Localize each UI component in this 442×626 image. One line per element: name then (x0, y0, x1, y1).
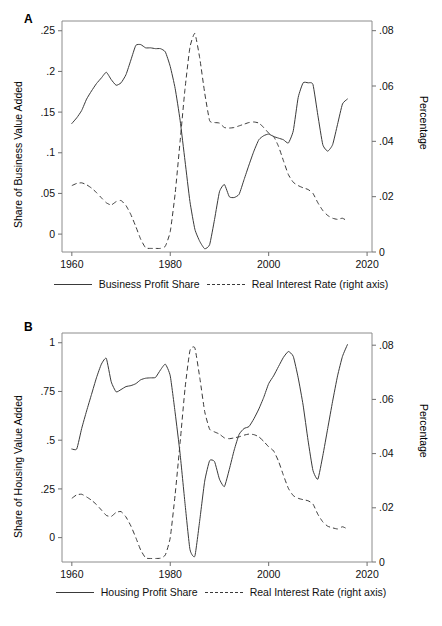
x-tick-label: 1960 (60, 258, 84, 270)
y2-tick-label: 0 (379, 556, 385, 568)
legend-solid-swatch (56, 592, 94, 593)
x-tick-label: 2020 (355, 568, 379, 580)
legend-dashed-label: Real Interest Rate (right axis) (252, 278, 389, 290)
y-tick-label: .1 (46, 146, 55, 158)
y2-tick-label: .06 (379, 393, 394, 405)
y-tick-label: .25 (40, 483, 55, 495)
y2-tick-label: .08 (379, 24, 394, 36)
y2-tick-label: .06 (379, 80, 394, 92)
y-tick-label: .2 (46, 65, 55, 77)
panel-a: A Share of Business Value Added Percenta… (0, 0, 442, 300)
y-tick-label: 1 (49, 336, 55, 348)
y-tick-label: 0 (49, 228, 55, 240)
y2-tick-label: .04 (379, 135, 394, 147)
legend-solid-label: Housing Profit Share (101, 586, 198, 598)
y-tick-label: .75 (40, 385, 55, 397)
x-tick-label: 2020 (355, 258, 379, 270)
panel-b: B Share of Housing Value Added Percentag… (0, 300, 442, 626)
y-tick-label: .25 (40, 24, 55, 36)
legend-solid-label: Business Profit Share (99, 278, 200, 290)
legend-solid-swatch (54, 284, 92, 285)
panel-a-plot: 0.05.1.15.2.250.02.04.06.081960198020002… (0, 0, 442, 275)
y-tick-label: .05 (40, 187, 55, 199)
panel-b-plot: 0.25.5.7510.02.04.06.081960198020002020 (0, 300, 442, 585)
legend-dashed-swatch (207, 284, 245, 285)
x-tick-label: 2000 (257, 258, 281, 270)
y-tick-label: 0 (49, 531, 55, 543)
y2-tick-label: .08 (379, 339, 394, 351)
x-tick-label: 1980 (159, 568, 183, 580)
panel-a-legend: Business Profit Share Real Interest Rate… (0, 278, 442, 290)
x-tick-label: 2000 (257, 568, 281, 580)
panel-b-legend: Housing Profit Share Real Interest Rate … (0, 586, 442, 598)
y2-tick-label: 0 (379, 246, 385, 258)
series-dashed (72, 33, 348, 248)
x-tick-label: 1960 (60, 568, 84, 580)
y2-tick-label: .02 (379, 190, 394, 202)
series-solid (72, 44, 348, 248)
y-tick-label: .5 (46, 434, 55, 446)
legend-dashed-label: Real Interest Rate (right axis) (250, 586, 387, 598)
x-tick-label: 1980 (159, 258, 183, 270)
figure-root: A Share of Business Value Added Percenta… (0, 0, 442, 626)
y-tick-label: .15 (40, 106, 55, 118)
series-dashed (72, 347, 348, 559)
y2-tick-label: .02 (379, 501, 394, 513)
y2-tick-label: .04 (379, 447, 394, 459)
series-solid (72, 345, 348, 557)
legend-dashed-swatch (205, 592, 243, 593)
